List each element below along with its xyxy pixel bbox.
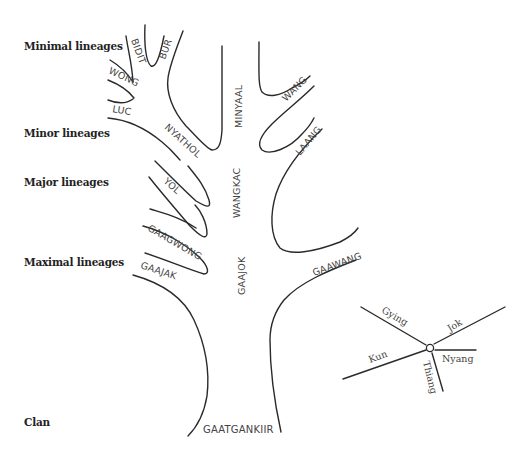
lineage-label-bur: BUR bbox=[157, 37, 174, 60]
lineage-label-gaajok: GAAJOK bbox=[236, 256, 247, 295]
house-diagram: Gying Jok Kun Nyang Thiang bbox=[343, 304, 505, 395]
house-label-thiang: Thiang bbox=[421, 360, 440, 395]
trunk-right bbox=[270, 260, 356, 432]
house-label-gying: Gying bbox=[380, 304, 410, 328]
house-label-kun: Kun bbox=[367, 348, 389, 365]
segmentary-lineage-tree: BIDIT BUR WONG LUC NYATHOL MINYAAL WANG … bbox=[0, 0, 529, 455]
lineage-label-laang: LAANG bbox=[293, 124, 323, 157]
lineage-label-nyathol: NYATHOL bbox=[163, 121, 204, 160]
lineage-label-wangkac: WANGKAC bbox=[231, 168, 242, 218]
house-line-jok bbox=[434, 307, 505, 344]
trunk-left bbox=[133, 275, 208, 436]
house-label-jok: Jok bbox=[444, 316, 464, 334]
lineage-label-wong: WONG bbox=[107, 65, 141, 89]
lineage-label-yol: YOL bbox=[161, 175, 183, 197]
lineage-label-luc: LUC bbox=[112, 103, 133, 117]
lineage-label-wang: WANG bbox=[280, 74, 309, 103]
clan-label-gaatgankiir: GAATGANKIIR bbox=[203, 424, 274, 435]
lineage-label-gaawang: GAAWANG bbox=[311, 250, 363, 278]
lineage-label-minyaal: MINYAAL bbox=[233, 84, 244, 128]
house-label-nyang: Nyang bbox=[442, 353, 474, 364]
house-center-node bbox=[426, 344, 433, 351]
lineage-labels: BIDIT BUR WONG LUC NYATHOL MINYAAL WANG … bbox=[107, 37, 363, 435]
